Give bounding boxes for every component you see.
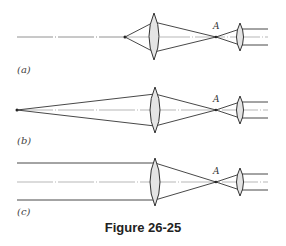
point-a-label: A <box>213 166 220 176</box>
panel-c-label: (c) <box>17 206 30 217</box>
objective-lens-icon <box>150 87 160 133</box>
figure-caption: Figure 26-25 <box>0 220 286 235</box>
point-a-label: A <box>213 21 220 31</box>
panel-c <box>17 158 268 206</box>
objective-lens-icon <box>149 13 159 60</box>
panel-b <box>16 87 269 133</box>
point-a-label: A <box>213 94 220 104</box>
eyepiece-lens-icon <box>237 23 244 51</box>
figure-26-25: A A A (a) (b) (c) Figure 26-25 <box>0 0 286 246</box>
panel-a-label: (a) <box>17 64 31 75</box>
eyepiece-lens-icon <box>237 96 244 124</box>
panel-a <box>17 13 268 60</box>
eyepiece-lens-icon <box>237 168 244 196</box>
optics-diagram <box>0 0 286 246</box>
panel-b-label: (b) <box>17 135 31 146</box>
